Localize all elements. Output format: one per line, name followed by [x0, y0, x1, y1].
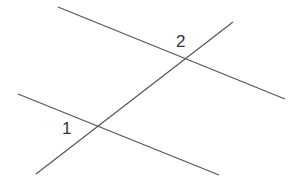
lower-line: [18, 94, 219, 175]
upper-line: [58, 7, 285, 99]
transversal-line: [36, 22, 233, 174]
diagram-lines: [0, 0, 297, 188]
angle-2-label: 2: [176, 33, 185, 50]
diagram-canvas: 2 1: [0, 0, 297, 188]
angle-1-label: 1: [62, 120, 71, 137]
